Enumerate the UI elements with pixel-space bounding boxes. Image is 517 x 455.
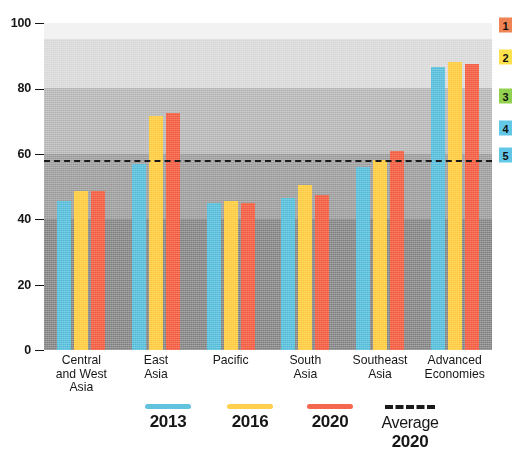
x-axis-label: Centraland WestAsia [38,354,125,395]
y-tick-60: 60 [0,147,44,161]
x-axis-label: SouthAsia [262,354,349,381]
chart-figure: 020406080100 Centraland WestAsiaEastAsia… [0,0,517,455]
average-reference-line [44,160,492,162]
bar-2016[interactable] [74,191,88,350]
bar-2020[interactable] [465,64,479,350]
legend-label: 2013 [130,412,206,431]
level-badge-label: 1 [502,19,508,31]
legend-label: 2016 [212,412,288,431]
x-axis-label-line: East [113,354,200,368]
legend-item-average[interactable]: Average2020 [372,404,448,451]
level-badge-4: 4 [499,121,512,136]
x-axis-label-line: Pacific [187,354,274,368]
legend-label: 2020 [292,412,368,431]
bar-2013[interactable] [356,167,370,350]
y-tick-label: 60 [17,147,31,161]
x-axis-label: AdvancedEconomies [411,354,498,381]
level-badges: 54321 [493,0,515,360]
bar-2020[interactable] [390,151,404,350]
y-tick-40: 40 [0,212,44,226]
bar-2016[interactable] [224,201,238,350]
chart-legend: 201320162020Average2020 [0,404,517,455]
x-axis-label: Pacific [187,354,274,368]
level-badge-label: 3 [502,90,508,102]
bar-2020[interactable] [241,203,255,350]
x-axis-label-line: Asia [113,368,200,382]
legend-swatch-2016 [227,404,273,409]
bar-2016[interactable] [373,160,387,350]
bar-group [193,23,268,350]
level-badge-1: 1 [499,18,512,33]
y-tick-mark [35,350,44,351]
x-axis-label-line: Asia [337,368,424,382]
bar-2013[interactable] [431,67,445,350]
bar-group [343,23,418,350]
x-axis-label-line: Southeast [337,354,424,368]
bar-2013[interactable] [132,164,146,350]
y-tick-80: 80 [0,81,44,95]
bar-2020[interactable] [315,195,329,350]
bar-2016[interactable] [448,62,462,350]
bar-2020[interactable] [166,113,180,350]
bar-group [44,23,119,350]
level-badge-label: 5 [502,149,508,161]
legend-label-secondary: 2020 [372,432,448,451]
x-axis-label-line: Central [38,354,125,368]
bar-group [268,23,343,350]
bar-2013[interactable] [281,198,295,350]
bar-2020[interactable] [91,191,105,350]
bar-group [417,23,492,350]
level-badge-3: 3 [499,89,512,104]
y-tick-mark [35,219,44,220]
bar-2016[interactable] [149,116,163,350]
legend-swatch-2013 [145,404,191,409]
plot-area [44,23,492,350]
level-badge-5: 5 [499,148,512,163]
y-tick-20: 20 [0,278,44,292]
x-axis-label-line: Asia [38,381,125,395]
legend-item-2016[interactable]: 2016 [212,404,288,431]
y-tick-mark [35,285,44,286]
level-badge-label: 4 [502,122,508,134]
bar-2013[interactable] [57,201,71,350]
y-tick-label: 80 [17,81,31,95]
x-axis-label-line: and West [38,368,125,382]
x-axis-label-line: Economies [411,368,498,382]
legend-swatch-dashed [385,405,435,409]
y-tick-label: 0 [24,343,31,357]
legend-item-2013[interactable]: 2013 [130,404,206,431]
x-axis-label-line: Advanced [411,354,498,368]
x-axis-label: SoutheastAsia [337,354,424,381]
y-tick-label: 20 [17,278,31,292]
x-axis-labels: Centraland WestAsiaEastAsiaPacificSouthA… [44,354,492,400]
y-tick-label: 40 [17,212,31,226]
y-tick-100: 100 [0,16,44,30]
legend-label: Average [372,413,448,432]
level-badge-label: 2 [502,51,508,63]
level-badge-2: 2 [499,50,512,65]
legend-item-2020[interactable]: 2020 [292,404,368,431]
x-axis-label-line: Asia [262,368,349,382]
y-tick-mark [35,23,44,24]
x-axis-label: EastAsia [113,354,200,381]
bar-group [119,23,194,350]
bar-2016[interactable] [298,185,312,350]
y-tick-mark [35,154,44,155]
bar-2013[interactable] [207,203,221,350]
y-tick-label: 100 [11,16,31,30]
legend-swatch-2020 [307,404,353,409]
x-axis-label-line: South [262,354,349,368]
y-tick-mark [35,89,44,90]
